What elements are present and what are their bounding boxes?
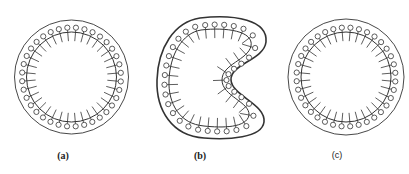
lipid-head-icon xyxy=(224,77,229,82)
lipid-head-icon xyxy=(246,101,251,106)
panel-c-round-vesicle xyxy=(288,19,404,135)
lipid-tail-icon xyxy=(233,99,240,108)
lipid-tail-icon xyxy=(240,48,248,56)
lipid-head-icon xyxy=(90,119,95,124)
lipid-tail-icon xyxy=(313,102,321,110)
lipid-head-icon xyxy=(294,79,299,84)
lipid-tail-icon xyxy=(313,44,321,52)
lipid-head-icon xyxy=(166,54,171,59)
lipid-head-icon xyxy=(65,25,70,30)
lipid-tail-icon xyxy=(101,50,110,56)
lipid-head-icon xyxy=(56,122,61,127)
lipid-head-icon xyxy=(40,115,45,120)
lipid-head-icon xyxy=(118,79,123,84)
lipid-head-icon xyxy=(34,109,39,114)
lipid-tail-icon xyxy=(180,40,188,47)
lipid-head-icon xyxy=(163,92,168,97)
lipid-head-icon xyxy=(232,89,237,94)
lipid-head-icon xyxy=(28,46,33,51)
lipid-head-icon xyxy=(34,39,39,44)
lipid-head-icon xyxy=(246,55,251,60)
lipid-head-icon xyxy=(21,87,26,92)
lipid-head-icon xyxy=(384,103,389,108)
lipid-head-icon xyxy=(296,61,301,66)
lipid-tail-icon xyxy=(175,106,184,112)
lipid-head-icon xyxy=(212,22,217,27)
lipid-head-icon xyxy=(379,39,384,44)
lipid-head-icon xyxy=(322,119,327,124)
lipid-tail-icon xyxy=(308,98,317,104)
lipid-tail-icon xyxy=(308,50,317,56)
lipid-head-icon xyxy=(388,95,393,100)
lipid-tail-icon xyxy=(242,37,251,44)
lipid-head-icon xyxy=(104,39,109,44)
lipid-head-icon xyxy=(73,25,78,30)
lipid-head-icon xyxy=(97,34,102,39)
lipid-tail-icon xyxy=(33,50,42,56)
lipid-tail-icon xyxy=(97,103,105,111)
lipid-tail-icon xyxy=(175,48,185,53)
lipid-head-icon xyxy=(251,113,256,118)
lipid-tail-icon xyxy=(92,39,98,48)
lipid-tail-icon xyxy=(367,107,373,116)
lipid-head-icon xyxy=(234,127,239,132)
panel-b-kidney-vesicle xyxy=(157,17,266,139)
lipid-head-icon xyxy=(231,66,236,71)
lipid-head-icon xyxy=(90,30,95,35)
lipid-head-icon xyxy=(226,72,231,77)
lipid-tail-icon xyxy=(376,50,385,56)
lipid-head-icon xyxy=(110,46,115,51)
panel-label-c: (c) xyxy=(332,150,343,160)
lipid-tail-icon xyxy=(181,111,188,119)
lipid-head-icon xyxy=(109,103,114,108)
lipid-head-icon xyxy=(215,129,220,134)
lipid-head-icon xyxy=(183,29,188,34)
lipid-tail-icon xyxy=(367,39,373,48)
lipid-head-icon xyxy=(388,54,393,59)
vesicle-deformation-figure xyxy=(0,0,409,174)
lipid-head-icon xyxy=(239,95,244,100)
lipid-head-icon xyxy=(253,45,258,50)
lipid-tail-icon xyxy=(38,102,46,110)
lipid-head-icon xyxy=(339,25,344,30)
lipid-head-icon xyxy=(239,61,244,66)
lipid-head-icon xyxy=(393,79,398,84)
lipid-head-icon xyxy=(48,119,53,124)
panel-label-b: (b) xyxy=(194,150,206,161)
lipid-tail-icon xyxy=(371,103,379,111)
lipid-tail-icon xyxy=(218,88,227,94)
lipid-tail-icon xyxy=(375,98,384,104)
lipid-head-icon xyxy=(118,70,123,75)
lipid-head-icon xyxy=(303,103,308,108)
lipid-tail-icon xyxy=(239,115,245,124)
lipid-head-icon xyxy=(166,102,171,107)
outer-membrane xyxy=(288,19,404,135)
lipid-head-icon xyxy=(21,61,26,66)
lipid-head-icon xyxy=(224,129,229,134)
lipid-head-icon xyxy=(82,27,87,32)
lipid-head-icon xyxy=(299,53,304,58)
lipid-head-icon xyxy=(56,27,61,32)
lipid-head-icon xyxy=(24,95,29,100)
lipid-tail-icon xyxy=(45,39,51,48)
lipid-head-icon xyxy=(364,30,369,35)
lipid-head-icon xyxy=(114,54,119,59)
lipid-head-icon xyxy=(348,25,353,30)
lipid-head-icon xyxy=(114,95,119,100)
lipid-head-icon xyxy=(82,122,87,127)
lipid-head-icon xyxy=(73,124,78,129)
lipid-tail-icon xyxy=(239,106,247,113)
lipid-head-icon xyxy=(162,82,167,87)
lipid-head-icon xyxy=(315,115,320,120)
lipid-head-icon xyxy=(104,110,109,115)
lipid-head-icon xyxy=(170,111,175,116)
lipid-head-icon xyxy=(117,62,122,67)
lipid-head-icon xyxy=(244,124,249,129)
lipid-tail-icon xyxy=(33,98,42,104)
lipid-head-icon xyxy=(164,63,169,68)
lipid-tail-icon xyxy=(92,107,98,116)
lipid-head-icon xyxy=(250,33,255,38)
lipid-tail-icon xyxy=(234,53,240,62)
lipid-head-icon xyxy=(372,115,377,120)
lipid-tail-icon xyxy=(101,98,110,104)
